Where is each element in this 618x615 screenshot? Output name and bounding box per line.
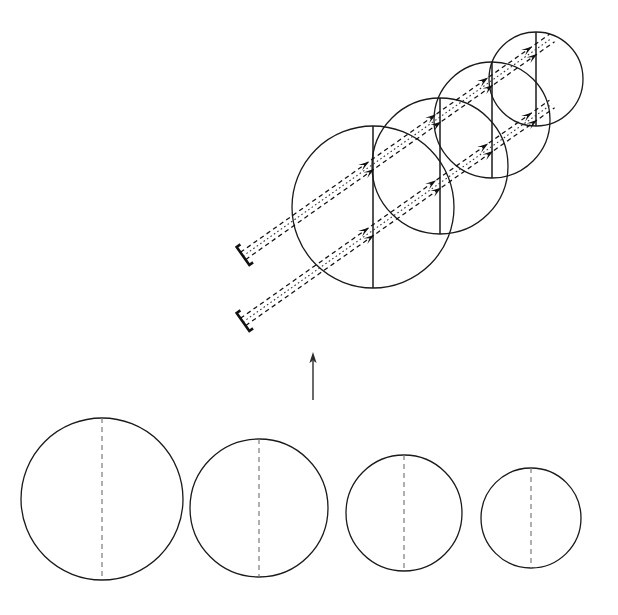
upper-ray-bundle-tail-marker [237,244,253,265]
upper-sphere-3 [434,62,550,178]
lower-ray-bundle-rail-3 [243,104,552,322]
upward-connector-arrow [309,352,316,400]
lower-ray-bundle [237,100,555,331]
diagram-canvas [0,0,618,615]
upper-sphere-1 [292,126,454,288]
upper-ray-bundle-rail-2 [246,42,555,260]
upper-ray-bundle-arrowhead-1-1 [358,161,369,170]
optical-ray-diagram [0,0,618,615]
upper-ray-bundle-arrowhead-4-1 [521,46,532,55]
lower-ray-bundle-tail-marker [237,310,253,331]
lower-sphere-1 [21,418,183,580]
upper-sphere-4 [489,32,583,126]
upper-sphere-2 [372,98,508,234]
upper-sphere-stack [292,32,583,288]
lower-sphere-2 [190,439,328,577]
lower-sphere-4 [481,468,581,568]
upper-ray-bundle [237,34,555,265]
lower-sphere-3 [346,455,462,571]
ray-bundle-group [237,34,555,331]
lower-ray-bundle-arrowhead-4-1 [521,112,532,121]
lower-ray-bundle-arrowhead-1-1 [358,227,369,236]
lower-sphere-row [21,418,581,580]
